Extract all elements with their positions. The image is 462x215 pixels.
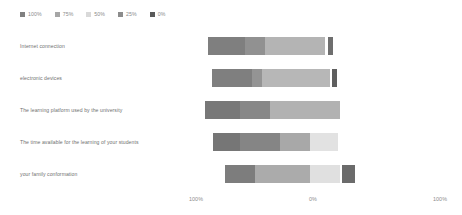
- bar-segment[interactable]: [270, 101, 340, 119]
- row-category-label: your family conformation: [20, 158, 77, 190]
- bar-segment[interactable]: [265, 37, 325, 55]
- legend-item-label: 75%: [63, 12, 74, 17]
- bar-segment[interactable]: [310, 165, 340, 183]
- stacked-bar[interactable]: [205, 101, 340, 119]
- legend-item-label: 100%: [28, 12, 42, 17]
- stacked-bar[interactable]: [208, 37, 333, 55]
- chart-row: your family conformation: [0, 158, 462, 190]
- legend-item-label: 0%: [158, 12, 166, 17]
- bar-segment[interactable]: [328, 37, 333, 55]
- chart-row: electronic devices: [0, 62, 462, 94]
- bar-segment[interactable]: [252, 69, 262, 87]
- bar-segment[interactable]: [212, 69, 252, 87]
- axis-tick-label: 100%: [433, 196, 447, 202]
- legend-item-label: 50%: [94, 12, 105, 17]
- chart-row: The learning platform used by the univer…: [0, 94, 462, 126]
- row-category-label: Internet connection: [20, 30, 65, 62]
- bar-segment[interactable]: [255, 165, 310, 183]
- bar-segment[interactable]: [240, 133, 280, 151]
- bar-segment[interactable]: [262, 69, 330, 87]
- axis-tick-label: 100%: [189, 196, 203, 202]
- x-axis: 100%0%100%: [0, 196, 462, 210]
- chart-row: Internet connection: [0, 30, 462, 62]
- bar-segment[interactable]: [332, 69, 337, 87]
- chart-legend: 100%75%50%25%0%: [20, 9, 165, 21]
- legend-swatch-icon: [55, 12, 60, 17]
- legend-item[interactable]: 0%: [150, 12, 166, 17]
- legend-swatch-icon: [150, 12, 155, 17]
- bar-segment[interactable]: [208, 37, 245, 55]
- bar-segment[interactable]: [225, 165, 255, 183]
- chart-container: 100%75%50%25%0% Internet connectionelect…: [0, 0, 462, 215]
- legend-item[interactable]: 75%: [55, 12, 74, 17]
- legend-swatch-icon: [20, 12, 25, 17]
- legend-swatch-icon: [118, 12, 123, 17]
- plot-area: Internet connectionelectronic devicesThe…: [0, 30, 462, 190]
- legend-item[interactable]: 25%: [118, 12, 137, 17]
- legend-item-label: 25%: [126, 12, 137, 17]
- axis-tick-label: 0%: [309, 196, 317, 202]
- bar-segment[interactable]: [213, 133, 240, 151]
- legend-item[interactable]: 100%: [20, 12, 42, 17]
- legend-item[interactable]: 50%: [86, 12, 105, 17]
- bar-segment[interactable]: [245, 37, 265, 55]
- bar-segment[interactable]: [240, 101, 270, 119]
- stacked-bar[interactable]: [225, 165, 355, 183]
- stacked-bar[interactable]: [213, 133, 338, 151]
- legend-swatch-icon: [86, 12, 91, 17]
- stacked-bar[interactable]: [212, 69, 337, 87]
- bar-segment[interactable]: [280, 133, 310, 151]
- bar-segment[interactable]: [342, 165, 355, 183]
- chart-row: The time available for the learning of y…: [0, 126, 462, 158]
- row-category-label: The learning platform used by the univer…: [20, 94, 122, 126]
- row-category-label: The time available for the learning of y…: [20, 126, 139, 158]
- bar-segment[interactable]: [205, 101, 240, 119]
- row-category-label: electronic devices: [20, 62, 62, 94]
- bar-segment[interactable]: [310, 133, 338, 151]
